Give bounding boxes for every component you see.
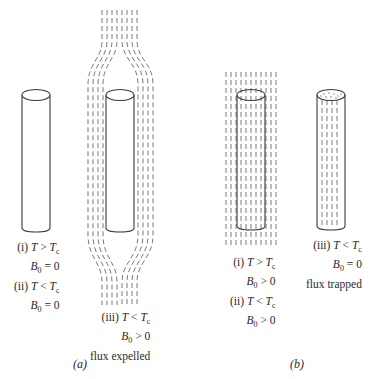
meissner-effect-figure: (i) T > Tc B0 = 0 (ii) T < Tc B0 = 0 (ii… (0, 0, 374, 379)
label-line: B0 > 0 (90, 329, 150, 348)
label-line: (i) T > Tc (230, 255, 276, 274)
label-line: B0 = 0 (14, 259, 60, 278)
label-line: (iii) T < Tc (306, 238, 362, 257)
label-line: flux expelled (90, 349, 150, 363)
cylinder-a-i-ii (22, 90, 50, 233)
flux-lines-trapped (322, 100, 337, 226)
label-line: (ii) T < Tc (14, 279, 60, 298)
label-line: B0 = 0 (14, 298, 60, 317)
label-line: B0 > 0 (230, 274, 276, 293)
label-a-i-ii: (i) T > Tc B0 = 0 (ii) T < Tc B0 = 0 (14, 240, 60, 317)
cylinder-b-iii (317, 90, 345, 231)
label-line: (i) T > Tc (14, 240, 60, 259)
trapped-flux-dots (320, 92, 341, 98)
cylinder-a-iii (106, 90, 134, 233)
diagram-artwork (0, 0, 374, 379)
label-line: (iii) T < Tc (90, 310, 150, 329)
label-line: B0 > 0 (230, 313, 276, 332)
flux-lines-penetrating (226, 72, 276, 245)
label-a-iii: (iii) T < Tc B0 > 0 flux expelled (90, 310, 150, 363)
label-b-iii: (iii) T < Tc B0 = 0 flux trapped (306, 238, 362, 291)
label-b-i-ii: (i) T > Tc B0 > 0 (ii) T < Tc B0 > 0 (230, 255, 276, 332)
label-line: (ii) T < Tc (230, 294, 276, 313)
label-line: B0 = 0 (306, 257, 362, 276)
panel-tag-a: (a) (73, 357, 87, 372)
panel-tag-b: (b) (290, 357, 304, 372)
label-line: flux trapped (306, 277, 362, 291)
